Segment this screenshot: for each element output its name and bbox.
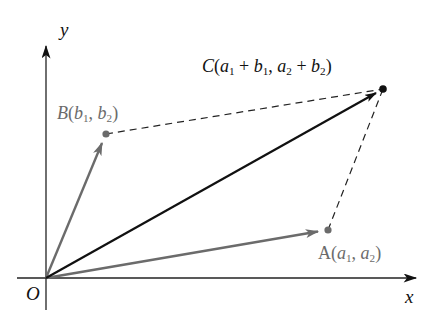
point-c	[379, 85, 387, 93]
vector-ob	[46, 143, 102, 278]
point-b	[102, 130, 109, 137]
term: a	[277, 56, 286, 76]
origin-label: O	[26, 284, 40, 303]
term: b	[74, 103, 83, 123]
point-b-letter: B	[57, 103, 68, 123]
point-a	[324, 226, 331, 233]
term: a	[220, 56, 229, 76]
separator: ,	[89, 103, 98, 123]
paren: )	[112, 103, 118, 123]
plus: +	[292, 56, 311, 76]
y-axis-label: y	[60, 20, 68, 39]
point-b-label: B(b1, b2)	[57, 104, 118, 125]
point-a-letter: A	[318, 243, 331, 263]
paren: )	[375, 243, 381, 263]
point-a-label: A(a1, a2)	[318, 244, 381, 265]
term: b	[311, 56, 320, 76]
separator: ,	[352, 243, 361, 263]
term: b	[254, 56, 263, 76]
term: a	[337, 243, 346, 263]
x-axis-label: x	[405, 287, 413, 306]
separator: ,	[268, 56, 277, 76]
term: b	[98, 103, 107, 123]
plus: +	[235, 56, 254, 76]
term: a	[361, 243, 370, 263]
point-c-letter: C	[202, 56, 214, 76]
point-c-label: C(a1 + b1, a2 + b2)	[202, 57, 332, 78]
diagram-canvas	[0, 0, 435, 327]
paren: )	[326, 56, 332, 76]
vector-addition-diagram: y x O B(b1, b2) A(a1, a2) C(a1 + b1, a2 …	[0, 0, 435, 327]
edge-a-to-c	[328, 89, 383, 230]
